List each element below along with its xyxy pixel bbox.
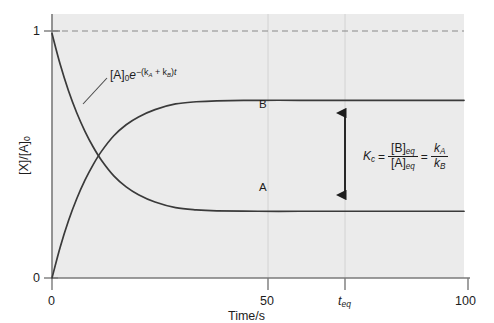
kinetics-equilibrium-figure: 1 0 [X]/[A]0 0 50 teq 100 Time/s B A [A]… bbox=[0, 0, 494, 323]
decay-formula-base: e bbox=[129, 68, 136, 82]
decay-formula-exponent-time: t bbox=[174, 67, 176, 77]
decay-formula-annotation: [A]0e−(kA + kB)t bbox=[110, 68, 177, 83]
y-axis-title-text: [X]/[A] bbox=[17, 141, 31, 175]
concentration-ratio-numerator-subscript: eq bbox=[406, 147, 415, 156]
x-tick-label-50: 50 bbox=[260, 295, 274, 308]
x-tick-label-0: 0 bbox=[48, 295, 55, 308]
concentration-ratio-fraction: [B]eq [A]eq bbox=[388, 142, 418, 172]
x-tick-label-teq-subscript: eq bbox=[341, 299, 350, 309]
y-tick-label-1: 1 bbox=[33, 25, 40, 38]
curve-label-a: A bbox=[259, 182, 267, 194]
rate-constant-ratio-fraction: kA kB bbox=[431, 142, 448, 172]
kc-equals-2: = bbox=[421, 151, 428, 163]
x-tick-label-teq: teq bbox=[338, 295, 351, 309]
concentration-ratio-denominator-text: [A] bbox=[391, 156, 406, 170]
concentration-ratio-numerator-text: [B] bbox=[391, 141, 406, 155]
rate-constant-ratio-denominator-subscript: B bbox=[440, 163, 445, 172]
kc-equals-1: = bbox=[378, 151, 385, 163]
concentration-ratio-denominator: [A]eq bbox=[388, 157, 418, 171]
y-tick-label-0: 0 bbox=[33, 272, 40, 285]
rate-constant-ratio-numerator-subscript: A bbox=[440, 147, 445, 156]
concentration-ratio-numerator: [B]eq bbox=[388, 142, 418, 157]
y-axis-title-subscript: 0 bbox=[22, 136, 32, 141]
decay-formula-exponent-head: −(k bbox=[136, 67, 149, 77]
rate-constant-ratio-denominator: kB bbox=[431, 157, 448, 171]
decay-formula-exponent-mid: + k bbox=[153, 67, 168, 77]
kc-symbol: K bbox=[363, 149, 371, 163]
kc-symbol-subscript: c bbox=[371, 155, 375, 164]
decay-formula-bracket: [A] bbox=[110, 68, 125, 82]
x-axis-title: Time/s bbox=[228, 310, 265, 323]
y-axis-title: [X]/[A]0 bbox=[18, 136, 32, 175]
rate-constant-ratio-numerator: kA bbox=[431, 142, 448, 157]
equilibrium-constant-equation: Kc = [B]eq [A]eq = kA kB bbox=[363, 142, 448, 172]
kc-symbol-group: Kc bbox=[363, 150, 375, 164]
concentration-ratio-denominator-subscript: eq bbox=[406, 163, 415, 172]
curve-label-b: B bbox=[259, 99, 267, 111]
x-tick-label-100: 100 bbox=[455, 295, 476, 308]
